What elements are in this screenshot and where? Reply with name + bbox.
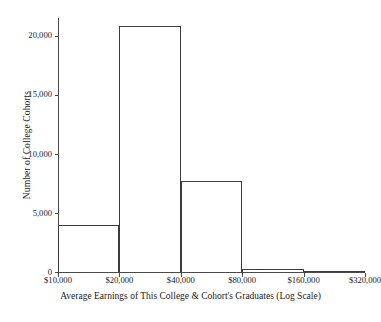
histogram-bar [181, 181, 242, 272]
y-axis-tick [55, 36, 59, 37]
y-axis-tick-labels: 05,00010,00015,00020,000 [6, 0, 52, 322]
y-axis-tick-label: 20,000 [8, 31, 52, 40]
plot-area [58, 18, 365, 272]
histogram-bar [242, 269, 303, 272]
y-axis-tick-label: 15,000 [8, 90, 52, 99]
x-axis-tick-label: $320,000 [349, 276, 381, 285]
y-axis-tick-label: 10,000 [8, 150, 52, 159]
y-axis-tick [55, 154, 59, 155]
y-axis-tick [55, 95, 59, 96]
x-axis-tick-label: $40,000 [167, 276, 195, 285]
histogram-chart: Number of College Cohorts 05,00010,00015… [0, 0, 381, 322]
x-axis-tick-label: $80,000 [228, 276, 256, 285]
histogram-bar [119, 26, 180, 272]
y-axis-tick-label: 5,000 [8, 209, 52, 218]
x-axis-line [58, 272, 365, 273]
x-axis-title: Average Earnings of This College & Cohor… [0, 291, 381, 302]
x-axis-tick-label: $160,000 [287, 276, 319, 285]
x-axis-tick-label: $20,000 [105, 276, 133, 285]
histogram-bar [304, 271, 365, 272]
y-axis-tick [55, 213, 59, 214]
histogram-bar [58, 225, 119, 272]
x-axis-tick-label: $10,000 [44, 276, 72, 285]
